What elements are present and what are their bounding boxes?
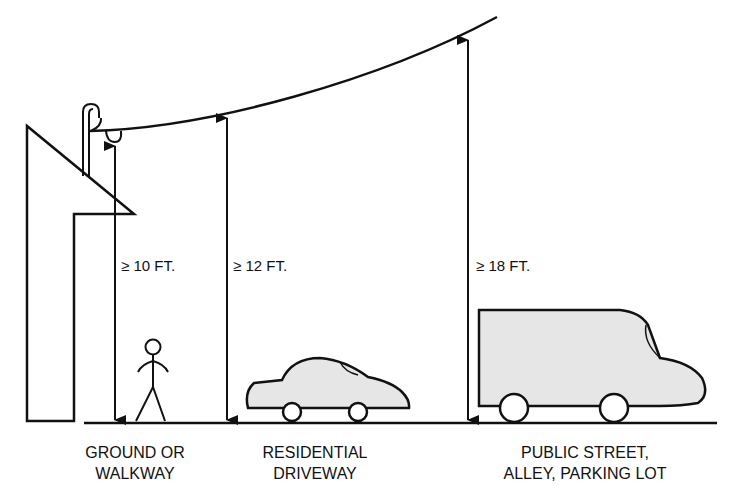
caption-street-line1: PUBLIC STREET, (490, 442, 680, 463)
car-drawing (247, 358, 409, 421)
person-figure (136, 340, 168, 422)
caption-street-line2: ALLEY, PARKING LOT (490, 463, 680, 484)
clearance-label-12ft: ≥ 12 FT. (233, 257, 287, 274)
caption-ground-line2: WALKWAY (70, 463, 200, 484)
house (27, 126, 134, 421)
caption-driveway-line2: DRIVEWAY (250, 463, 380, 484)
clearance-label-18ft: ≥ 18 FT. (476, 257, 530, 274)
caption-ground-walkway: GROUND OR WALKWAY (70, 442, 200, 484)
truck-drawing (479, 310, 705, 422)
service-drop-wire (90, 17, 497, 131)
clearance-diagram (0, 0, 730, 504)
caption-residential-driveway: RESIDENTIAL DRIVEWAY (250, 442, 380, 484)
caption-driveway-line1: RESIDENTIAL (250, 442, 380, 463)
caption-public-street: PUBLIC STREET, ALLEY, PARKING LOT (490, 442, 680, 484)
clearance-label-10ft: ≥ 10 FT. (121, 257, 175, 274)
caption-ground-line1: GROUND OR (70, 442, 200, 463)
